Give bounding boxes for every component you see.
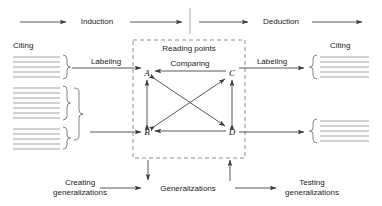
comparing-label: Comparing: [170, 59, 209, 69]
left-citing-label: Citing: [13, 41, 33, 51]
right-document-group-1: [320, 57, 369, 77]
testing-generalizations-label: Testing generalizations: [285, 178, 339, 197]
reading-points-title: Reading points: [162, 44, 215, 54]
left-brace-1: [63, 55, 71, 79]
diagram-root: Induction Deduction Citing Citing Labeli…: [0, 0, 382, 206]
induction-label: Induction: [81, 17, 113, 27]
left-labeling-arrows: [72, 68, 141, 132]
left-document-group-1: [13, 57, 60, 77]
node-b-label: B: [144, 127, 150, 137]
testing-generalizations-line2: generalizations: [285, 188, 339, 198]
node-d-label: D: [229, 127, 236, 137]
right-citing-label: Citing: [330, 41, 350, 51]
diagram-canvas: [0, 0, 382, 206]
right-labeling-label: Labeling: [257, 57, 287, 67]
left-merge-brace: [74, 88, 83, 140]
creating-generalizations-line1: Creating: [53, 178, 107, 188]
center-edges: [147, 71, 232, 131]
reading-points-box: [133, 40, 245, 158]
left-brace-2: [63, 86, 71, 120]
left-document-group-3: [13, 129, 60, 149]
right-labeling-arrows: [239, 68, 304, 132]
right-document-group-2: [320, 121, 369, 141]
node-c-label: C: [229, 68, 235, 78]
right-brace-2: [310, 119, 318, 143]
right-brace-1: [310, 55, 318, 79]
generalizations-label: Generalizations: [160, 184, 216, 194]
testing-generalizations-line1: Testing: [285, 178, 339, 188]
left-labeling-label: Labeling: [91, 57, 121, 67]
top-flow-arrows: [20, 8, 362, 34]
left-brace-3: [63, 127, 71, 149]
creating-generalizations-label: Creating generalizations: [53, 178, 107, 197]
node-a-label: A: [144, 68, 150, 78]
left-document-group-2: [13, 88, 60, 118]
deduction-label: Deduction: [263, 17, 299, 27]
creating-generalizations-line2: generalizations: [53, 188, 107, 198]
